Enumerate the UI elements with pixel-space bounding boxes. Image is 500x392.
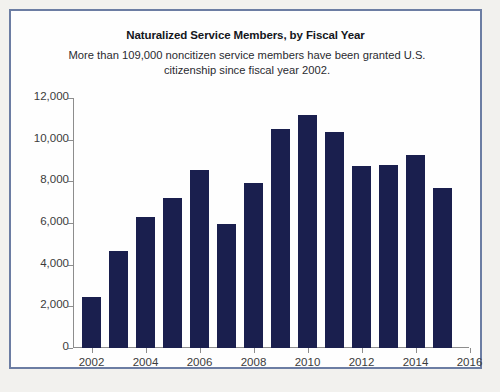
x-axis-tick-mark xyxy=(92,348,93,353)
x-axis-tick-label: 2002 xyxy=(79,356,105,368)
x-axis-tick-label: 2010 xyxy=(295,356,321,368)
y-axis-tick-label: 10,000 xyxy=(34,132,69,144)
bar xyxy=(352,166,371,348)
x-axis-tick-mark xyxy=(200,348,201,353)
bar xyxy=(136,217,155,348)
bar xyxy=(298,115,317,348)
bar xyxy=(109,251,128,348)
x-axis-tick-label: 2012 xyxy=(349,356,375,368)
bar xyxy=(190,170,209,348)
x-axis-tick-mark xyxy=(470,348,471,353)
y-axis-line xyxy=(73,98,74,348)
bar xyxy=(217,224,236,348)
y-axis-tick-label: 0 xyxy=(63,340,69,352)
x-axis-tick-label: 2016 xyxy=(457,356,483,368)
figure-frame: Naturalized Service Members, by Fiscal Y… xyxy=(9,9,482,369)
x-axis-tick-mark xyxy=(146,348,147,353)
bar xyxy=(379,165,398,348)
plot-area: 02,0004,0006,0008,00010,00012,000 200220… xyxy=(73,89,469,348)
y-axis-tick-label: 12,000 xyxy=(34,90,69,102)
bar xyxy=(325,132,344,348)
bar xyxy=(406,155,425,348)
x-axis-tick-mark xyxy=(308,348,309,353)
x-axis-tick-label: 2006 xyxy=(187,356,213,368)
x-axis-tick-label: 2014 xyxy=(403,356,429,368)
x-axis-tick-mark xyxy=(362,348,363,353)
bar xyxy=(82,297,101,348)
y-axis-tick-label: 6,000 xyxy=(40,215,69,227)
x-axis-tick-mark xyxy=(254,348,255,353)
x-axis-tick-mark xyxy=(416,348,417,353)
y-axis-tick-label: 4,000 xyxy=(40,257,69,269)
x-axis-tick-label: 2008 xyxy=(241,356,267,368)
x-axis-tick-label: 2004 xyxy=(133,356,159,368)
y-axis-tick-label: 2,000 xyxy=(40,298,69,310)
chart-subtitle: More than 109,000 noncitizen service mem… xyxy=(49,48,445,78)
bar-series xyxy=(82,98,452,348)
bar xyxy=(163,198,182,348)
bar xyxy=(271,129,290,348)
bar xyxy=(433,188,452,348)
y-axis-tick-label: 8,000 xyxy=(40,173,69,185)
chart-title: Naturalized Service Members, by Fiscal Y… xyxy=(11,29,480,41)
bar xyxy=(244,183,263,348)
